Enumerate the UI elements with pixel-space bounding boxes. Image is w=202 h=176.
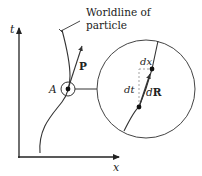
point-a-label: A — [48, 83, 57, 95]
t-axis-label: t — [10, 23, 15, 36]
dR-vector-symbol: R — [153, 86, 162, 98]
annotation-line2: particle — [86, 19, 127, 31]
dx-label: dx — [140, 56, 152, 67]
event-dot-lower — [137, 105, 142, 110]
axes — [18, 28, 119, 158]
x-axis-label: x — [113, 161, 120, 174]
event-dot-upper — [150, 67, 155, 72]
point-a-dot — [66, 87, 71, 92]
magnified-view: dx dt dR — [97, 40, 195, 138]
annotation-line1: Worldline of — [86, 6, 152, 18]
annotation-pointer — [61, 21, 80, 31]
momentum-label: P — [79, 60, 87, 72]
worldline-diagram: t x Worldline of particle P A dx dt dR — [0, 0, 202, 176]
dt-label: dt — [124, 84, 135, 95]
dR-label: dR — [146, 86, 162, 98]
